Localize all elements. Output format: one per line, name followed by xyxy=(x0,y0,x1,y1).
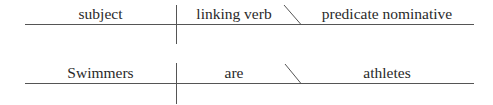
linking-verb-label: linking verb xyxy=(176,6,292,22)
linking-verb-label: are xyxy=(176,65,292,81)
predicate-nominative-label: athletes xyxy=(300,65,474,81)
predicate-nominative-label: predicate nominative xyxy=(300,6,474,22)
subject-label: subject xyxy=(25,6,176,22)
subject-label: Swimmers xyxy=(25,65,176,81)
